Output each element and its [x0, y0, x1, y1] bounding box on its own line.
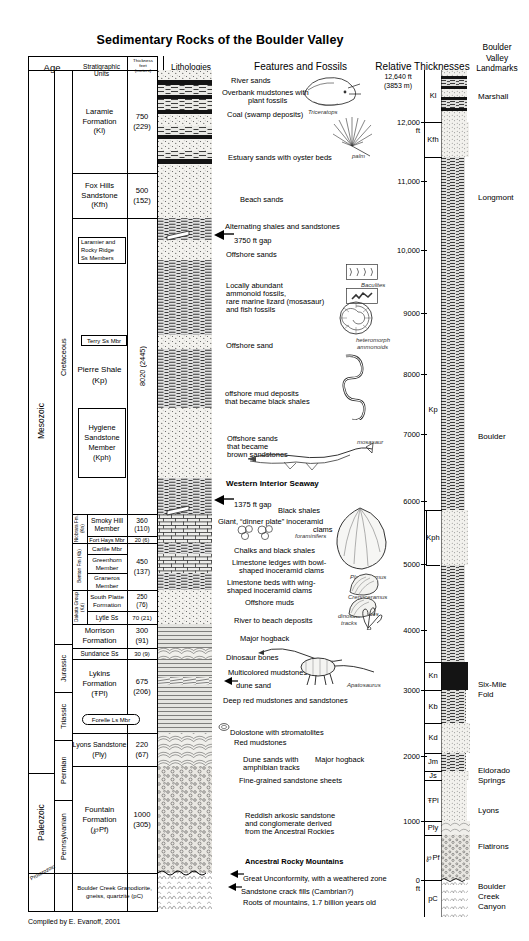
- unit-boulder-creek-granodiorite: Boulder Creek Granodiorite, gneiss, quar…: [72, 873, 157, 911]
- scale-tick-label: 3000: [378, 686, 420, 695]
- feature-text: Dolostone with stromatolites: [230, 728, 324, 737]
- header-boulder-valley-landmarks: Boulder Valley Landmarks: [466, 42, 528, 74]
- relative-unit-code: Jm: [425, 753, 441, 771]
- fossil-label: tracks: [341, 620, 357, 626]
- feature-text: that became black shales: [225, 397, 310, 406]
- period-triassic: Triassic: [54, 692, 72, 740]
- era-mesozoic: Mesozoic: [28, 70, 54, 773]
- stromatolite-icon: [218, 722, 230, 732]
- relative-unit-code: Js: [425, 771, 441, 780]
- feature-text: Sandstone crack fills (Cambrian?): [241, 887, 354, 896]
- feature-text: from the Ancestral Rockies: [245, 827, 334, 836]
- thickness-fort-hays: 20 (6): [127, 536, 157, 543]
- scale-tick-label: 1000: [378, 817, 420, 826]
- landmark-label: Eldorado: [478, 766, 510, 776]
- relative-unit-code: Kb: [425, 690, 441, 723]
- feature-text: Offshore sands: [226, 250, 277, 259]
- western-interior-seaway-label: Western Interior Seaway: [226, 479, 319, 489]
- unit-laramie-formation: Laramie Formation (Kl): [72, 70, 127, 173]
- feature-text: Fine-grained sandstone sheets: [239, 776, 342, 785]
- baculites-icon: [346, 264, 378, 280]
- relative-unit-divider: [425, 157, 442, 158]
- relative-unit-code: Ply: [425, 821, 441, 835]
- relative-unit-code: Kfh: [425, 122, 441, 157]
- relative-unit-divider: [425, 835, 442, 836]
- thickness-lytle: 70 (21): [127, 611, 157, 624]
- scale-tick-unit: ft: [378, 126, 420, 135]
- palm-fossil-icon: [330, 116, 374, 158]
- unit-sundance-ss: Sundance Ss: [72, 648, 127, 659]
- landmark-label: Canyon: [478, 902, 506, 912]
- period-jurassic: Jurassic: [54, 644, 72, 692]
- unit-lytle-ss: Lytle Ss: [87, 611, 127, 624]
- unit-terry-ss-member: Terry Ss Mbr: [81, 335, 127, 346]
- feature-text: Ancestral Rocky Mountains: [245, 857, 343, 866]
- ammonite-icon: [338, 300, 374, 336]
- unit-laramier-rocky-ridge-members: Laramier and Rocky Ridge Ss Members: [78, 237, 126, 264]
- relative-unit-divider: [425, 880, 442, 881]
- landmark-label: Fold: [478, 690, 494, 700]
- unit-south-platte-formation: South Platte Formation: [87, 590, 127, 611]
- feature-text: Offshore sand: [226, 341, 273, 350]
- relative-unit-divider: [425, 753, 442, 754]
- stratigraphic-column-figure: Sedimentary Rocks of the Boulder Valley …: [0, 0, 529, 941]
- scale-tick-label: 11,000: [378, 177, 420, 186]
- crack-fill-arrow-icon: [226, 881, 242, 893]
- relative-unit-code: Kl: [425, 70, 441, 122]
- thickness-benton: 450 (137): [127, 543, 157, 590]
- relative-unit-code: Kn: [425, 662, 441, 690]
- scale-tick-unit: ft: [378, 884, 420, 893]
- feature-text: and fish fossils: [226, 305, 275, 314]
- credit-line: Compiled by E. Evanoff, 2001: [28, 918, 120, 927]
- thickness-lyons: 220 (67): [127, 733, 157, 766]
- row-divider: [72, 659, 157, 660]
- feature-text: amphibian tracks: [243, 763, 300, 772]
- row-divider: [72, 766, 157, 767]
- feature-text: River sands: [231, 76, 271, 85]
- landmark-label: Lyons: [478, 806, 499, 816]
- feature-text: shaped inoceramid clams: [227, 586, 312, 595]
- header-features-fossils: Features and Fossils: [228, 61, 373, 72]
- feature-text: Red mudstones: [234, 738, 287, 747]
- relative-thickness-column: [441, 70, 471, 918]
- group-niobrara: Niobrara Fm. (Kn): [72, 514, 87, 543]
- landmark-label: Boulder: [478, 882, 506, 892]
- feature-text: shaped inoceramid clams: [239, 566, 324, 575]
- unit-hygiene-sandstone-member: Hygiene Sandstone Member (Kph): [78, 408, 126, 478]
- scale-tick-label: 9000: [378, 309, 420, 318]
- scale-tick-label: 4000: [378, 626, 420, 635]
- feature-text: Major hogback: [315, 755, 364, 764]
- page-title: Sedimentary Rocks of the Boulder Valley: [0, 33, 440, 47]
- feature-text: Offshore muds: [245, 598, 294, 607]
- feature-text: Great Unconformity, with a weathered zon…: [243, 874, 387, 883]
- scale-tick-label: 8000: [378, 370, 420, 379]
- feature-text: River to beach deposits: [234, 616, 312, 625]
- relative-unit-code: ℘Pf: [425, 835, 441, 880]
- feature-text: plant fossils: [248, 96, 287, 105]
- relative-unit-divider: [425, 821, 442, 822]
- fossil-label: ammonoids: [357, 344, 388, 350]
- foraminifers-icon: [236, 524, 276, 540]
- feature-text: Estuary sands with oyster beds: [228, 153, 332, 162]
- unit-fountain-formation: Fountain Formation (℘Pf): [72, 800, 127, 840]
- unit-fort-hays-member: Fort Hays Mbr: [87, 536, 127, 543]
- thickness-pierre-shale: 8020 (2445): [127, 218, 157, 514]
- crenoceramus-icon: [346, 572, 380, 596]
- landmark-label: Boulder: [478, 432, 506, 442]
- unconformity-arrow-icon: [228, 868, 244, 880]
- period-divider-5: [54, 873, 72, 874]
- landmark-label: Creek: [478, 892, 499, 902]
- landmark-label: Longmont: [478, 193, 514, 203]
- thickness-south-platte: 250 (76): [127, 590, 157, 611]
- scale-tick-label: 2000: [378, 752, 420, 761]
- scale-tick-label: 7000: [378, 430, 420, 439]
- fossil-label: foraminifers: [295, 533, 326, 539]
- thickness-morrison: 300 (91): [127, 624, 157, 648]
- unit-morrison-formation: Morrison Formation: [72, 624, 127, 648]
- scale-tick-label: 5000: [378, 560, 420, 569]
- heteromorph-ammonoid-icon: [334, 352, 368, 420]
- era-paleozoic: Paleozoic: [28, 773, 54, 873]
- feature-text: Alternating shales and sandstones: [225, 222, 340, 231]
- thickness-laramie: 750 (229): [127, 70, 157, 173]
- relative-unit-divider: [425, 662, 442, 663]
